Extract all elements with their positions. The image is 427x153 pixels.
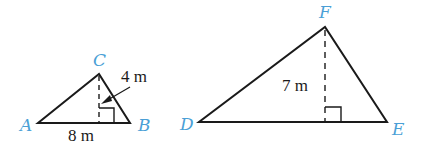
right-angle-marker-abc <box>99 108 114 123</box>
triangle-abc: A B C 8 m 4 m <box>18 50 151 145</box>
triangle-def-outline <box>199 27 387 122</box>
vertex-label-a: A <box>18 115 32 135</box>
height-measure-label-abc: 4 m <box>121 67 147 86</box>
vertex-label-b: B <box>137 115 151 135</box>
vertex-label-c: C <box>93 50 106 70</box>
base-measure-label: 8 m <box>68 126 94 145</box>
similar-triangles-diagram: A B C 8 m 4 m D E F 7 m <box>0 0 427 153</box>
triangle-def: D E F 7 m <box>179 2 405 139</box>
vertex-label-e: E <box>391 119 405 139</box>
vertex-label-d: D <box>179 114 194 134</box>
height-measure-label-def: 7 m <box>282 76 308 95</box>
vertex-label-f: F <box>318 2 332 22</box>
height-pointer-arrowhead-icon <box>101 95 112 104</box>
right-angle-marker-def <box>325 107 341 122</box>
triangle-abc-outline <box>38 74 130 123</box>
